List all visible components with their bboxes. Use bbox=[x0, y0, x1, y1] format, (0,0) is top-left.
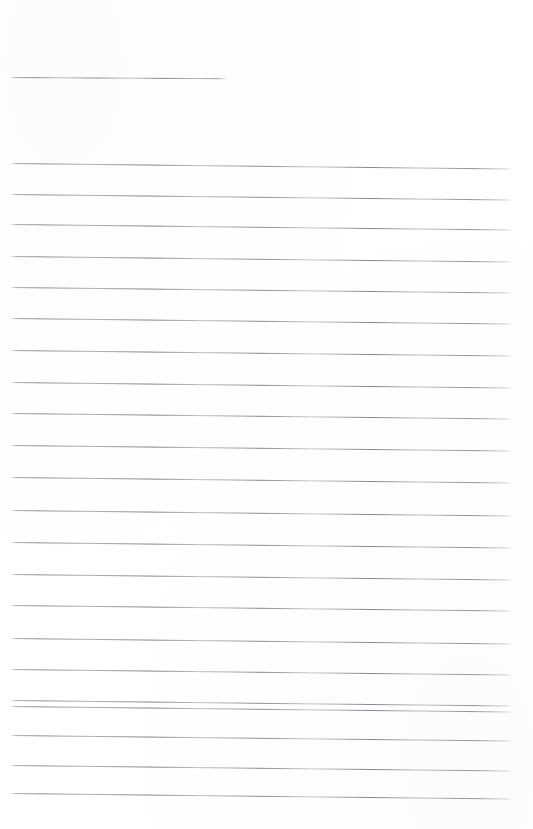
ruled-line bbox=[10, 350, 512, 356]
ruled-line bbox=[10, 256, 512, 262]
header-rule bbox=[10, 77, 228, 79]
ruled-line bbox=[10, 445, 512, 451]
ruled-line bbox=[10, 287, 512, 293]
ruled-line bbox=[10, 735, 512, 741]
ruled-line bbox=[10, 793, 512, 799]
ruled-line bbox=[10, 700, 512, 706]
ruled-line bbox=[10, 669, 512, 675]
ruled-line bbox=[10, 194, 512, 200]
ruled-line bbox=[10, 224, 512, 230]
scanned-page bbox=[0, 0, 533, 829]
ruled-line bbox=[10, 765, 512, 771]
ruled-line bbox=[10, 510, 512, 516]
ruled-line bbox=[10, 706, 512, 712]
ruled-line bbox=[10, 382, 512, 388]
ruled-line bbox=[10, 163, 512, 169]
ruled-line bbox=[10, 574, 512, 580]
ruled-line bbox=[10, 413, 512, 419]
ruled-line bbox=[10, 542, 512, 548]
ruled-line bbox=[10, 477, 512, 483]
ruled-line bbox=[10, 318, 512, 324]
ruled-line bbox=[10, 605, 512, 611]
ruled-line bbox=[10, 638, 512, 644]
